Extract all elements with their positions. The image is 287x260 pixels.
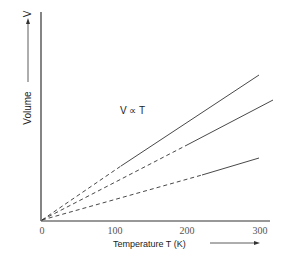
line-1-solid xyxy=(121,75,259,166)
y-axis-symbol: V xyxy=(22,10,33,17)
line-1-dashed xyxy=(42,166,121,220)
line-3-dashed xyxy=(42,175,202,220)
x-tick-0: 0 xyxy=(40,225,45,236)
x-tick-200: 200 xyxy=(180,225,195,236)
line-2-solid xyxy=(187,100,273,145)
x-arrow-head-icon xyxy=(254,241,260,245)
line-3-solid xyxy=(202,158,259,175)
line-2-dashed xyxy=(42,145,187,220)
x-tick-300: 300 xyxy=(253,225,268,236)
annotation: V ∝ T xyxy=(120,105,145,116)
y-axis-label: Volume xyxy=(22,91,33,125)
x-tick-100: 100 xyxy=(108,225,123,236)
y-arrow-head-icon xyxy=(26,18,30,24)
x-axis-label: Temperature T (K) xyxy=(113,239,186,249)
chart: V Volume 0 100 200 300 Temperature T (K)… xyxy=(0,0,287,260)
